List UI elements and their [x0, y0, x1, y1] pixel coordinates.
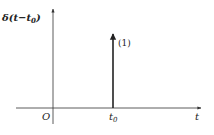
- x-axis-label: t: [195, 112, 199, 122]
- y-axis-label: δ(t−t0): [2, 13, 41, 26]
- impulse-position-label: t0: [109, 112, 118, 125]
- impulse-weight-label: (1): [118, 38, 131, 48]
- origin-label: O: [42, 112, 50, 122]
